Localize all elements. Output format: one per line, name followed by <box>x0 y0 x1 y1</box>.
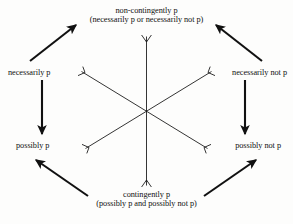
node-possibly-not-p: possibly not p <box>235 141 281 150</box>
node-contingently-p-line1: contingently p <box>123 190 170 199</box>
cross-lines-group <box>78 35 215 187</box>
modal-logic-hexagon-diagram: non-contingently p (necessarily p or nec… <box>0 0 293 224</box>
arrow-contingently-p-to-possibly-not-p <box>204 160 256 196</box>
diagonal-line-ne-sw <box>82 67 215 154</box>
node-contingently-p-line2: (possibly p and possibly not p) <box>96 199 197 208</box>
node-necessarily-p: necessarily p <box>8 68 50 77</box>
diagonal-line-nw-se <box>78 67 211 154</box>
node-non-contingently-p-line1: non-contingently p <box>115 6 177 15</box>
node-necessarily-p-line1: necessarily p <box>8 68 50 77</box>
arrow-necessarily-p-to-non-contingently-p <box>30 25 76 61</box>
node-non-contingently-p: non-contingently p (necessarily p or nec… <box>90 6 204 25</box>
node-possibly-not-p-line1: possibly not p <box>235 141 281 150</box>
arrow-necessarily-not-p-to-non-contingently-p <box>216 25 262 61</box>
node-possibly-p-line1: possibly p <box>16 141 49 150</box>
node-necessarily-not-p: necessarily not p <box>232 68 287 77</box>
node-necessarily-not-p-line1: necessarily not p <box>232 68 287 77</box>
arrow-contingently-p-to-possibly-p <box>36 160 88 196</box>
node-contingently-p: contingently p (possibly p and possibly … <box>96 190 197 209</box>
node-possibly-p: possibly p <box>16 141 49 150</box>
node-non-contingently-p-line2: (necessarily p or necessarily not p) <box>90 15 204 24</box>
